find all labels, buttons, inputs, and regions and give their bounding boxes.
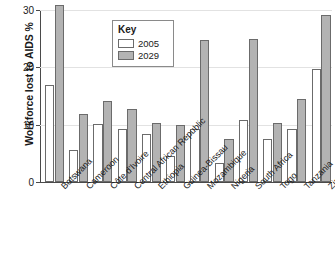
- legend-entry-2005: 2005: [118, 39, 168, 49]
- legend: Key 2005 2029: [112, 20, 174, 67]
- legend-swatch-2005: [118, 39, 134, 48]
- x-axis-label: Mozambique: [205, 184, 212, 191]
- y-tick-mark: [36, 125, 40, 126]
- legend-swatch-2029: [118, 51, 134, 60]
- x-axis-label: Togo: [278, 184, 285, 191]
- x-axis-label: Zimbabwe: [326, 184, 333, 191]
- y-tick-label: 30: [23, 5, 34, 16]
- legend-label-2029: 2029: [138, 51, 159, 61]
- bar-chart: Workforce lost to AIDS % 0102030 Botswan…: [0, 0, 335, 271]
- x-axis-label: Ethiopia: [156, 184, 163, 191]
- y-tick-label: 10: [23, 119, 34, 130]
- x-axis-label: Nigeria: [229, 184, 236, 191]
- y-tick-mark: [36, 182, 40, 183]
- legend-entry-2029: 2029: [118, 51, 168, 61]
- x-axis-label: South Africa: [253, 184, 260, 191]
- x-axis-label: Central African Republic: [132, 184, 139, 191]
- y-tick-mark: [36, 10, 40, 11]
- y-tick-label: 20: [23, 62, 34, 73]
- bar: [321, 15, 330, 182]
- caption-strip: [0, 262, 335, 271]
- x-axis-label: Botswana: [59, 184, 66, 191]
- x-axis-label: Cameroon: [84, 184, 91, 191]
- x-axis-label: Guinea-Bissau: [181, 184, 188, 191]
- bar: [45, 85, 54, 182]
- x-axis-category-labels: BotswanaCameroonCôte d'IvoireCentral Afr…: [40, 184, 332, 264]
- bar: [249, 39, 258, 182]
- x-axis-label: Tanzania: [302, 184, 309, 191]
- y-axis-title: Workforce lost to AIDS %: [23, 4, 35, 164]
- y-tick-label: 0: [28, 177, 34, 188]
- legend-label-2005: 2005: [138, 39, 159, 49]
- y-tick-mark: [36, 67, 40, 68]
- x-axis-label: Côte d'Ivoire: [108, 184, 115, 191]
- bar: [297, 99, 306, 182]
- bar: [55, 5, 64, 182]
- legend-title: Key: [118, 25, 168, 36]
